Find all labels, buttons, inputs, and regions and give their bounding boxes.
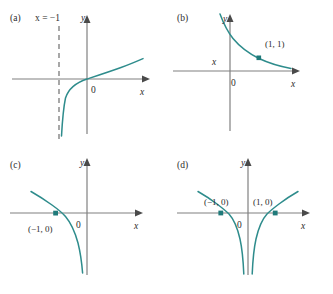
panel-c-letter: (c) [10,160,21,171]
panel-d-point-label-right: (1, 0) [253,197,273,207]
panel-a-origin-label: 0 [91,85,96,95]
panel-d: (d) y x 0 (−1, 0) (1, 0) [167,147,333,294]
panel-a-y-axis-label: y [80,13,86,23]
panel-c-x-axis-label: x [133,221,139,231]
panel-c: (c) y x 0 (−1, 0) [0,147,166,294]
panel-b-x-axis-label: x [290,79,296,89]
panel-b-point-label: (1, 1) [265,39,285,49]
panel-b: (b) y x x 0 (1, 1) [167,0,333,147]
panel-b-y-axis-label: y [222,14,228,24]
panel-d-point-label-left: (−1, 0) [204,197,229,207]
panel-c-origin-label: 0 [76,220,81,230]
panel-d-letter: (d) [177,160,188,171]
panel-a-letter: (a) [10,13,21,24]
panel-c-y-axis-label: y [79,158,85,168]
panel-d-y-axis-arrow-icon [245,158,252,166]
panel-d-point-marker-left [218,211,223,216]
panel-c-x-axis-arrow-icon [135,210,143,217]
panel-d-x-axis-label: x [300,221,306,231]
panel-c-y-axis-arrow-icon [84,158,91,166]
panel-b-origin-label: 0 [231,78,236,88]
panel-b-x-axis-label-left: x [211,57,217,67]
panel-c-point-marker [53,211,58,216]
panel-d-y-axis-label: y [240,158,246,168]
panel-b-letter: (b) [177,13,188,24]
panel-b-x-axis-arrow-icon [292,68,300,75]
panel-c-point-label: (−1, 0) [28,224,53,234]
panel-a-curve [62,59,144,136]
panel-a: (a) x = −1 y x 0 [0,0,166,147]
panel-d-x-axis-arrow-icon [302,210,310,217]
panel-b-y-axis-arrow-icon [227,14,234,22]
panel-a-x-axis-arrow-icon [142,76,150,83]
panel-d-point-marker-right [273,211,278,216]
panel-a-asymptote-label: x = −1 [35,13,60,23]
panel-a-x-axis-label: x [139,87,145,97]
panel-d-origin-label: 0 [237,220,242,230]
figure-container: (a) x = −1 y x 0 (b) [0,0,333,294]
panel-b-point-marker [257,56,262,61]
